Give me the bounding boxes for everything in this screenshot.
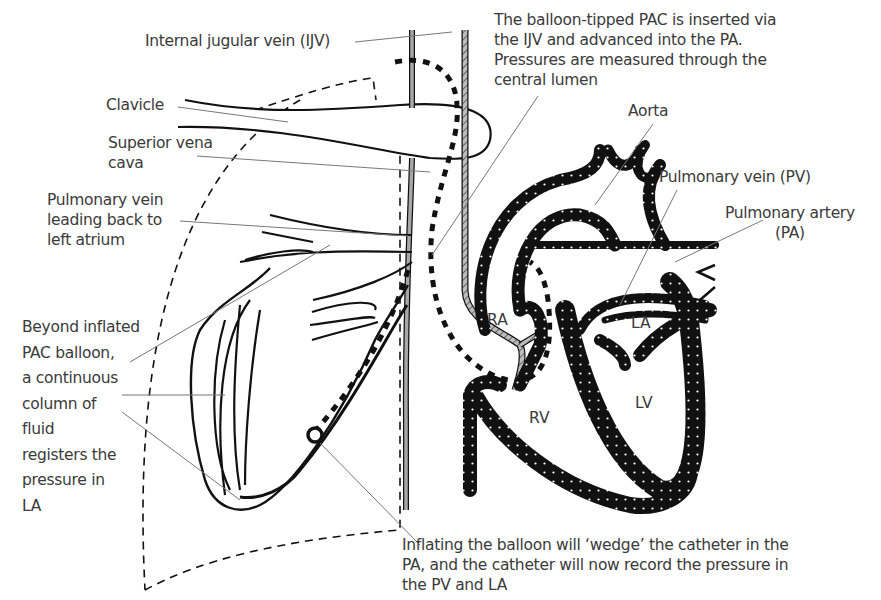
pa-branch-tips xyxy=(698,265,715,300)
label-pulmonary-vein: Pulmonary vein (PV) xyxy=(659,167,811,187)
chamber-label-ra: RA xyxy=(487,311,508,329)
label-internal-jugular-vein: Internal jugular vein (IJV) xyxy=(145,31,330,51)
clavicle xyxy=(178,100,491,159)
label-balloon-wedge: Inflating the balloon will ‘wedge’ the c… xyxy=(402,535,788,595)
label-pac-insertion: The balloon-tipped PAC is inserted via t… xyxy=(494,10,776,90)
label-clavicle: Clavicle xyxy=(106,95,164,115)
pac-balloon xyxy=(308,428,322,442)
lung-outline xyxy=(143,100,400,590)
chamber-label-la: LA xyxy=(631,314,651,332)
chamber-label-lv: LV xyxy=(635,394,653,412)
label-pulmonary-vein-left-atrium: Pulmonary vein leading back to left atri… xyxy=(47,190,163,250)
lung-inner-dashed xyxy=(255,78,376,110)
label-superior-vena-cava: Superior vena cava xyxy=(108,133,213,173)
label-aorta: Aorta xyxy=(628,101,668,121)
label-pulmonary-artery: Pulmonary artery (PA) xyxy=(725,203,855,243)
chamber-label-rv: RV xyxy=(529,409,550,427)
label-continuous-fluid-column: Beyond inflated PAC balloon, a continuou… xyxy=(22,315,140,519)
